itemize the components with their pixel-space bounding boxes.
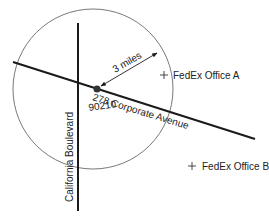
address-street-label: 278 Corporate Avenue	[91, 91, 190, 131]
office-a-marker-icon	[160, 71, 168, 79]
office-b-marker-icon	[188, 162, 196, 170]
map-diagram: 3 miles 278 Corporate Avenue 90210 Calif…	[0, 0, 269, 218]
california-boulevard-label: California Boulevard	[64, 112, 75, 202]
office-a-label: FedEx Office A	[173, 70, 240, 81]
radius-circle	[13, 9, 173, 169]
office-b-label: FedEx Office B	[202, 161, 269, 172]
